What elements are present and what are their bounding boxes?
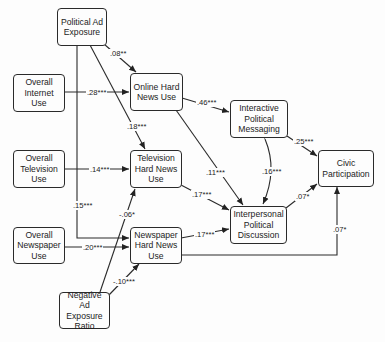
- coef-online-to-interactive: .46***: [196, 98, 217, 107]
- node-online-hard-news-use: Online Hard News Use: [130, 73, 183, 111]
- coef-interpersonal-to-civic: .07*: [295, 192, 311, 201]
- coef-online-to-interpersonal: .11***: [205, 168, 226, 177]
- coef-newspaper-to-newspaper-news: .20***: [82, 243, 103, 252]
- coef-interactive-to-civic: .25***: [293, 137, 314, 146]
- coef-internet-to-online: .28***: [86, 88, 107, 97]
- coef-interactive-interpersonal: .16***: [261, 167, 282, 176]
- coef-political-ad-to-tv-news: .18***: [126, 122, 147, 131]
- coef-tv-news-to-interpersonal: .17***: [191, 190, 212, 199]
- coef-negative-to-tv-news: -.06*: [118, 210, 136, 219]
- coef-negative-to-newspaper-news: -.10***: [112, 277, 136, 286]
- node-negative-ad-exposure-ratio: Negative Ad Exposure Ratio: [59, 292, 110, 329]
- node-interactive-political-messaging: Interactive Political Messaging: [230, 100, 288, 138]
- node-television-hard-news-use: Television Hard News Use: [130, 150, 182, 188]
- node-overall-internet-use: Overall Internet Use: [13, 74, 65, 112]
- node-political-ad-exposure: Political Ad Exposure: [57, 8, 107, 46]
- coef-tv-to-tv-news: .14***: [89, 165, 110, 174]
- node-interpersonal-political-discussion: Interpersonal Political Discussion: [230, 206, 287, 244]
- coef-political-ad-to-online: .08**: [109, 49, 127, 58]
- node-overall-television-use: Overall Television Use: [13, 150, 65, 188]
- coef-political-ad-to-newspaper-news: .15***: [72, 201, 93, 210]
- node-overall-newspaper-use: Overall Newspaper Use: [13, 227, 65, 264]
- node-newspaper-hard-news-use: Newspaper Hard News Use: [130, 227, 182, 264]
- node-civic-participation: Civic Participation: [318, 150, 374, 187]
- coef-newspaper-news-to-interpersonal: .17***: [194, 230, 215, 239]
- coef-newspaper-news-to-civic: .07*: [332, 225, 348, 234]
